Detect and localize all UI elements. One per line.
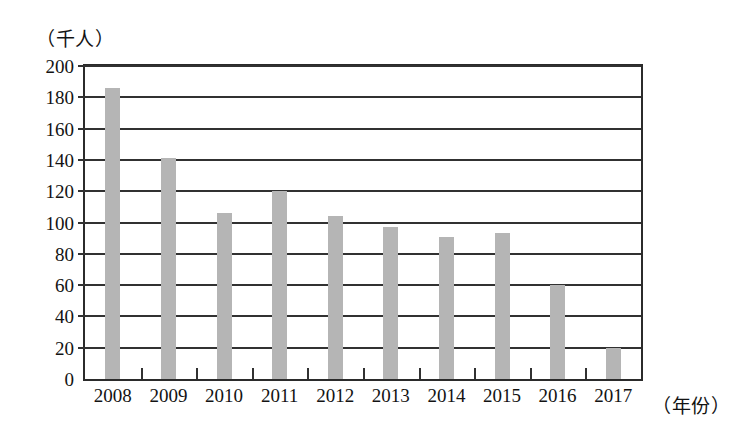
x-axis-unit-label: （年份） [652,391,730,418]
plot-area [83,64,643,381]
bar [495,233,510,379]
x-axis-tick-mark [196,368,198,379]
y-axis-unit-label: （千人） [36,24,114,51]
bar [272,191,287,379]
gridline [85,65,641,67]
y-axis-tick-label: 160 [14,120,74,139]
y-axis-tick-label: 40 [14,307,74,326]
y-axis-tick-label: 140 [14,151,74,170]
bar [439,237,454,379]
y-axis-tick-mark [78,96,85,98]
x-axis-tick-mark [419,368,421,379]
y-axis-tick-mark [78,65,85,67]
x-axis-tick-mark [363,368,365,379]
y-axis-tick-label: 180 [14,88,74,107]
y-axis-tick-mark [78,159,85,161]
y-axis-tick-mark [78,253,85,255]
y-axis-tick-label: 100 [14,214,74,233]
y-axis-tick-label: 0 [14,370,74,389]
bar [217,213,232,379]
bar [606,348,621,379]
x-axis-tick-mark [252,368,254,379]
bar [328,216,343,379]
y-axis-tick-mark [78,190,85,192]
y-axis-tick-label: 20 [14,339,74,358]
bar [550,285,565,379]
x-axis-tick-mark [585,368,587,379]
gridline [85,96,641,98]
plot-inner [85,66,641,379]
y-axis-tick-mark [78,222,85,224]
bar-chart: （千人） 200180160140120100806040200 2008200… [0,0,755,446]
bar [161,158,176,379]
x-axis-tick-mark [141,368,143,379]
y-axis-tick-mark [78,128,85,130]
x-axis-tick-mark [474,368,476,379]
y-axis-tick-label: 60 [14,276,74,295]
x-axis-tick-label: 2017 [578,386,648,405]
y-axis-tick-label: 80 [14,245,74,264]
y-axis-tick-mark [78,284,85,286]
gridline [85,128,641,130]
y-axis-tick-mark [78,347,85,349]
y-axis-tick-label: 120 [14,182,74,201]
x-axis-tick-mark [307,368,309,379]
x-axis-tick-mark [530,368,532,379]
bar [105,88,120,379]
y-axis-tick-mark [78,315,85,317]
y-axis-tick-label: 200 [14,57,74,76]
bar [383,227,398,379]
